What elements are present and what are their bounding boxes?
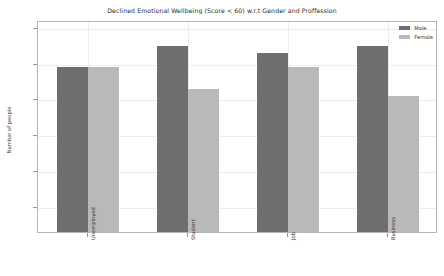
y-axis-label: Number of people <box>6 95 12 165</box>
bar-business-female <box>388 96 419 232</box>
bar-student-female <box>188 89 219 232</box>
legend-entry-female: Female <box>399 33 433 41</box>
legend-swatch-female-icon <box>399 35 410 39</box>
x-tick-mark-unemployed <box>87 233 88 237</box>
bar-job-male <box>257 53 288 232</box>
legend-label-female: Female <box>414 34 433 40</box>
bar-student-male <box>157 46 188 232</box>
x-tick-label-unemployed: Unemployed <box>90 207 96 240</box>
legend-swatch-male-icon <box>399 26 410 30</box>
x-tick-mark-student <box>187 233 188 237</box>
bar-unemployed-male <box>57 67 88 232</box>
gridline-h-30 <box>38 29 436 30</box>
x-tick-label-business: Business <box>390 217 396 240</box>
legend-entry-male: Male <box>399 24 433 32</box>
plot-area <box>37 21 437 233</box>
x-tick-mark-job <box>287 233 288 237</box>
bar-job-female <box>288 67 319 232</box>
chart-legend: Male Female <box>396 22 436 44</box>
chart-figure: Declined Emotional Wellbeing (Score < 60… <box>0 0 444 276</box>
legend-label-male: Male <box>414 25 426 31</box>
x-tick-label-student: Student <box>190 220 196 240</box>
chart-title: Declined Emotional Wellbeing (Score < 60… <box>0 7 444 14</box>
bar-business-male <box>357 46 388 232</box>
x-tick-label-job: Job <box>290 232 296 240</box>
x-tick-mark-business <box>387 233 388 237</box>
